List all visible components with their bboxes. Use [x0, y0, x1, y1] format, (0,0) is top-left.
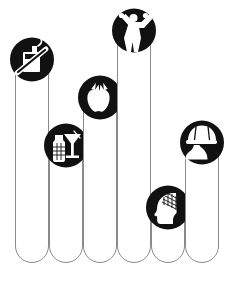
- bar-group-safety[interactable]: [180, 121, 224, 263]
- badge-safety[interactable]: [180, 121, 224, 165]
- badge-no-smoking[interactable]: [10, 38, 54, 82]
- exercise-figure-hand-right: [143, 13, 148, 18]
- bar-group-alcohol[interactable]: [44, 124, 88, 263]
- bar-group-mental-health[interactable]: [146, 186, 190, 263]
- badge-nutrition[interactable]: [78, 76, 122, 120]
- exercise-figure-hand-left: [119, 13, 124, 18]
- cigarette-tip: [32, 43, 37, 46]
- bar-group-nutrition[interactable]: [78, 76, 122, 263]
- alcohol-drinks-icon[interactable]: [44, 124, 88, 168]
- bar-group-exercise[interactable]: [112, 9, 156, 263]
- badge-mental-health[interactable]: [146, 186, 190, 230]
- helmet-brim-shape: [186, 140, 217, 144]
- infographic-canvas: [0, 0, 238, 284]
- badge-exercise[interactable]: [112, 9, 156, 53]
- badge-alcohol[interactable]: [44, 124, 88, 168]
- bar-chart: [0, 0, 238, 284]
